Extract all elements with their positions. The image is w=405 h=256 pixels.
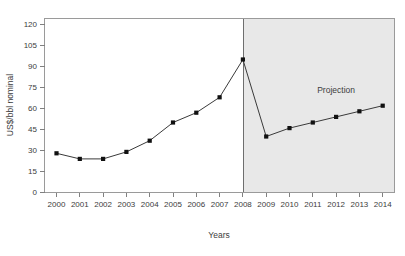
y-tick-label-75: 75 (28, 83, 37, 92)
x-axis-title: Years (208, 230, 229, 240)
x-tick-label-2010: 2010 (281, 200, 299, 209)
y-tick-label-0: 0 (33, 188, 38, 197)
clipped-title-strip: · · · · · · · (0, 0, 405, 7)
data-point-2000 (54, 151, 58, 155)
data-point-2006 (194, 111, 198, 115)
x-tick-label-2005: 2005 (164, 200, 182, 209)
x-tick-label-2007: 2007 (211, 200, 229, 209)
y-tick-label-15: 15 (28, 167, 37, 176)
data-point-2013 (357, 109, 361, 113)
x-tick-label-2011: 2011 (304, 200, 322, 209)
data-point-2014 (381, 104, 385, 108)
x-tick-label-2002: 2002 (94, 200, 112, 209)
x-tick-label-2008: 2008 (234, 200, 252, 209)
y-tick-label-105: 105 (24, 41, 38, 50)
projection-label: Projection (317, 85, 355, 95)
data-point-2012 (334, 115, 338, 119)
data-point-2009 (264, 134, 268, 138)
data-point-2008 (241, 57, 245, 61)
x-tick-label-2006: 2006 (187, 200, 205, 209)
x-tick-label-2001: 2001 (71, 200, 89, 209)
data-point-2011 (311, 120, 315, 124)
data-point-2005 (171, 120, 175, 124)
y-tick-label-30: 30 (28, 146, 37, 155)
x-tick-label-2012: 2012 (327, 200, 345, 209)
x-tick-label-2014: 2014 (374, 200, 392, 209)
data-point-2003 (124, 150, 128, 154)
y-tick-label-45: 45 (28, 125, 37, 134)
line-chart: 0 15 30 45 60 75 90 105 120 US$/bbl nomi… (0, 0, 405, 256)
y-axis-tick-labels: 0 15 30 45 60 75 90 105 120 (24, 20, 38, 197)
x-tick-label-2009: 2009 (257, 200, 275, 209)
y-axis-title: US$/bbl nominal (5, 74, 15, 136)
x-axis-tick-labels: 2000 2001 2002 2003 2004 2005 2006 2007 … (48, 200, 393, 209)
data-point-2007 (218, 95, 222, 99)
x-tick-label-2004: 2004 (141, 200, 159, 209)
x-tick-label-2003: 2003 (118, 200, 136, 209)
y-axis-ticks (40, 25, 45, 193)
data-point-2002 (101, 157, 105, 161)
x-axis-ticks (57, 193, 383, 198)
clipped-title-text: · · · · · · · (0, 0, 31, 3)
y-tick-label-60: 60 (28, 104, 37, 113)
x-tick-label-2000: 2000 (48, 200, 66, 209)
data-point-2010 (287, 126, 291, 130)
y-tick-label-90: 90 (28, 62, 37, 71)
data-point-2001 (78, 157, 82, 161)
chart-figure: · · · · · · · 0 15 30 45 60 (0, 0, 405, 256)
x-tick-label-2013: 2013 (351, 200, 369, 209)
data-point-2004 (148, 139, 152, 143)
y-tick-label-120: 120 (24, 20, 38, 29)
projection-band (243, 19, 395, 192)
